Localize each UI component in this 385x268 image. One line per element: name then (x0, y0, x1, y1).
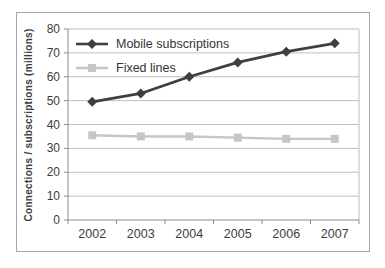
y-tick-label: 40 (47, 118, 61, 132)
x-tick-label: 2007 (321, 227, 349, 241)
y-tick-label: 0 (53, 213, 60, 227)
data-point-mobile-subscriptions-2006 (281, 47, 291, 57)
y-tick-label: 70 (47, 46, 61, 60)
legend: Mobile subscriptions Fixed lines (75, 37, 229, 75)
data-point-fixed-lines-2003 (137, 132, 145, 140)
data-point-fixed-lines-2007 (331, 135, 339, 143)
legend-sample-mobile (75, 38, 109, 50)
x-tick-label: 2002 (78, 227, 106, 241)
square-marker-icon (88, 64, 96, 72)
legend-label-mobile-subscriptions: Mobile subscriptions (116, 37, 229, 51)
data-point-mobile-subscriptions-2007 (330, 38, 340, 48)
chart-frame: 0102030405060708020022003200420052006200… (16, 12, 370, 252)
y-axis-title: Connections / subscriptions (millions) (23, 28, 34, 221)
series-line-fixed-lines (92, 135, 335, 139)
legend-label-fixed-lines: Fixed lines (116, 61, 176, 75)
legend-sample-fixed (75, 62, 109, 74)
data-point-mobile-subscriptions-2005 (233, 57, 243, 67)
y-tick-label: 30 (47, 141, 61, 155)
legend-item-mobile-subscriptions: Mobile subscriptions (75, 37, 229, 51)
data-point-mobile-subscriptions-2003 (136, 88, 146, 98)
x-tick-label: 2006 (272, 227, 300, 241)
diamond-marker-icon (87, 39, 97, 49)
y-tick-label: 10 (47, 189, 61, 203)
y-tick-label: 20 (47, 165, 61, 179)
data-point-fixed-lines-2004 (185, 132, 193, 140)
legend-item-fixed-lines: Fixed lines (75, 61, 229, 75)
data-point-mobile-subscriptions-2002 (87, 97, 97, 107)
x-tick-label: 2003 (127, 227, 155, 241)
data-point-fixed-lines-2005 (234, 134, 242, 142)
data-point-fixed-lines-2002 (88, 131, 96, 139)
x-tick-label: 2005 (224, 227, 252, 241)
data-point-fixed-lines-2006 (282, 135, 290, 143)
y-tick-label: 50 (47, 94, 61, 108)
x-tick-label: 2004 (175, 227, 203, 241)
chart-figure: 0102030405060708020022003200420052006200… (0, 0, 385, 268)
y-tick-label: 60 (47, 70, 61, 84)
y-tick-label: 80 (47, 22, 61, 36)
